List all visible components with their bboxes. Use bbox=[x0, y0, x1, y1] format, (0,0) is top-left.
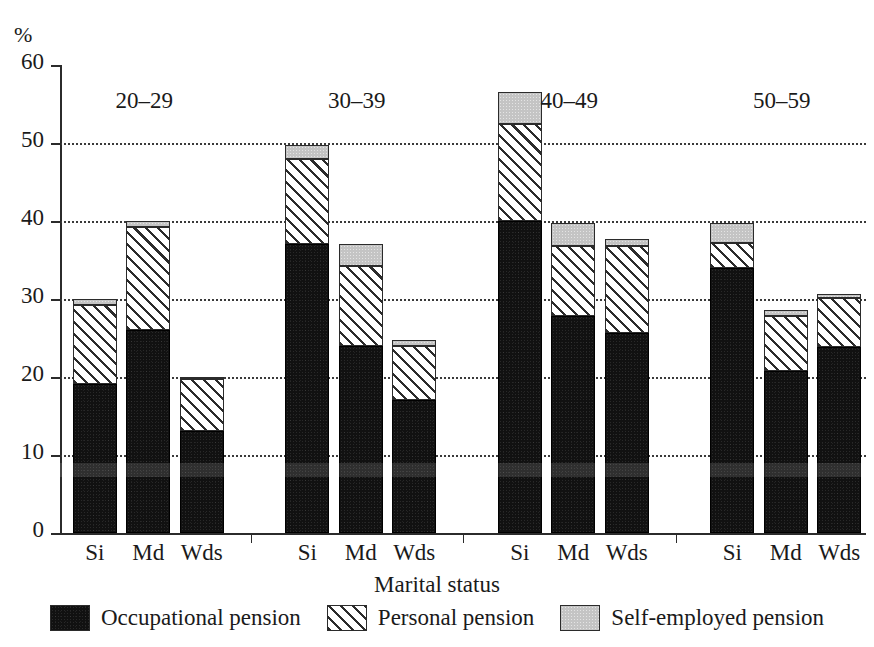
bar-segment-personal-pension bbox=[126, 227, 170, 330]
group-label-40-49: 40–49 bbox=[541, 88, 599, 114]
bar-segment-occupational-pension bbox=[339, 346, 383, 533]
bar-segment-self-employed-pension bbox=[605, 239, 649, 246]
bar-segment-occupational-pension bbox=[817, 347, 861, 533]
bar-50-59-Si bbox=[710, 65, 754, 533]
bar-segment-self-employed-pension bbox=[339, 244, 383, 266]
x-tick-label-30-39-Md: Md bbox=[345, 540, 377, 566]
bar-segment-personal-pension bbox=[551, 246, 595, 316]
bar-segment-personal-pension bbox=[285, 159, 329, 244]
bar-30-39-Md bbox=[339, 65, 383, 533]
x-tick-label-20-29-Wds: Wds bbox=[181, 540, 223, 566]
bar-50-59-Md bbox=[764, 65, 808, 533]
bar-segment-occupational-pension bbox=[551, 316, 595, 533]
bar-segment-occupational-pension bbox=[605, 333, 649, 533]
y-tick-0 bbox=[51, 533, 61, 535]
bar-segment-self-employed-pension bbox=[710, 223, 754, 243]
bar-40-49-Si bbox=[498, 65, 542, 533]
chart-legend: Occupational pensionPersonal pensionSelf… bbox=[0, 605, 874, 631]
bar-segment-personal-pension bbox=[180, 379, 224, 430]
bar-segment-self-employed-pension bbox=[498, 92, 542, 123]
bar-segment-self-employed-pension bbox=[764, 310, 808, 316]
y-tick-50 bbox=[51, 143, 61, 145]
occupational-swatch bbox=[50, 605, 90, 631]
bar-20-29-Si bbox=[73, 65, 117, 533]
y-tick-label-50: 50 bbox=[0, 127, 44, 153]
bar-segment-personal-pension bbox=[764, 316, 808, 371]
y-tick-label-10: 10 bbox=[0, 439, 44, 465]
x-tick-label-50-59-Md: Md bbox=[770, 540, 802, 566]
bar-segment-personal-pension bbox=[605, 246, 649, 333]
personal-swatch bbox=[327, 605, 367, 631]
legend-item-personal: Personal pension bbox=[327, 605, 535, 631]
legend-item-occupational: Occupational pension bbox=[50, 605, 301, 631]
bar-segment-occupational-pension bbox=[180, 431, 224, 533]
group-label-20-29: 20–29 bbox=[116, 88, 174, 114]
x-tick-label-30-39-Si: Si bbox=[298, 540, 317, 566]
y-axis-unit-label: % bbox=[14, 22, 33, 48]
y-tick-20 bbox=[51, 377, 61, 379]
bar-segment-occupational-pension bbox=[73, 384, 117, 533]
bar-segment-occupational-pension bbox=[285, 244, 329, 533]
bar-50-59-Wds bbox=[817, 65, 861, 533]
bar-segment-personal-pension bbox=[498, 124, 542, 222]
bar-segment-personal-pension bbox=[392, 346, 436, 401]
bar-20-29-Wds bbox=[180, 65, 224, 533]
bar-segment-self-employed-pension bbox=[180, 377, 224, 379]
bar-segment-personal-pension bbox=[710, 243, 754, 268]
x-tick-label-50-59-Si: Si bbox=[723, 540, 742, 566]
x-tick-label-30-39-Wds: Wds bbox=[393, 540, 435, 566]
bar-segment-self-employed-pension bbox=[551, 223, 595, 246]
x-tick-separator-0 bbox=[251, 533, 252, 543]
legend-label-personal: Personal pension bbox=[378, 605, 535, 631]
y-tick-label-20: 20 bbox=[0, 361, 44, 387]
x-tick-label-40-49-Wds: Wds bbox=[606, 540, 648, 566]
bar-30-39-Wds bbox=[392, 65, 436, 533]
legend-item-self-employed: Self-employed pension bbox=[560, 605, 824, 631]
bar-segment-self-employed-pension bbox=[285, 145, 329, 160]
y-tick-30 bbox=[51, 299, 61, 301]
x-tick-label-20-29-Si: Si bbox=[85, 540, 104, 566]
y-tick-label-0: 0 bbox=[0, 517, 44, 543]
bar-segment-occupational-pension bbox=[498, 221, 542, 533]
x-axis-title: Marital status bbox=[0, 572, 874, 598]
bar-segment-self-employed-pension bbox=[817, 294, 861, 298]
bar-segment-occupational-pension bbox=[764, 371, 808, 533]
self-employed-swatch bbox=[560, 605, 600, 631]
bar-segment-occupational-pension bbox=[126, 330, 170, 533]
bar-segment-occupational-pension bbox=[710, 268, 754, 533]
group-label-30-39: 30–39 bbox=[328, 88, 386, 114]
y-tick-label-40: 40 bbox=[0, 205, 44, 231]
group-label-50-59: 50–59 bbox=[753, 88, 811, 114]
bar-segment-personal-pension bbox=[73, 305, 117, 384]
y-tick-label-60: 60 bbox=[0, 49, 44, 75]
bar-segment-self-employed-pension bbox=[126, 221, 170, 227]
bar-segment-self-employed-pension bbox=[73, 299, 117, 305]
x-tick-label-40-49-Md: Md bbox=[557, 540, 589, 566]
bar-segment-occupational-pension bbox=[392, 400, 436, 533]
bar-segment-personal-pension bbox=[339, 266, 383, 346]
legend-label-self-employed: Self-employed pension bbox=[611, 605, 824, 631]
bar-20-29-Md bbox=[126, 65, 170, 533]
y-tick-10 bbox=[51, 455, 61, 457]
legend-label-occupational: Occupational pension bbox=[101, 605, 301, 631]
bar-40-49-Md bbox=[551, 65, 595, 533]
plot-area bbox=[60, 65, 866, 533]
x-tick-separator-2 bbox=[676, 533, 677, 543]
x-tick-separator-1 bbox=[463, 533, 464, 543]
bar-30-39-Si bbox=[285, 65, 329, 533]
bar-segment-self-employed-pension bbox=[392, 340, 436, 345]
x-tick-label-40-49-Si: Si bbox=[510, 540, 529, 566]
y-tick-label-30: 30 bbox=[0, 283, 44, 309]
x-tick-label-50-59-Wds: Wds bbox=[818, 540, 860, 566]
bar-segment-personal-pension bbox=[817, 298, 861, 347]
y-tick-40 bbox=[51, 221, 61, 223]
bar-40-49-Wds bbox=[605, 65, 649, 533]
y-tick-60 bbox=[51, 65, 61, 67]
x-tick-label-20-29-Md: Md bbox=[132, 540, 164, 566]
chart-container: % 0102030405060 20–2930–3940–4950–59 SiM… bbox=[0, 0, 874, 647]
